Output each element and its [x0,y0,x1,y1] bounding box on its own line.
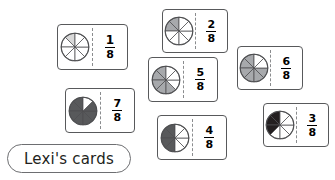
fraction-circle-icon [160,123,190,153]
fraction-notation: 38 [307,113,317,138]
fraction-notation: 58 [195,67,205,92]
fraction-card[interactable]: 28 [162,9,228,53]
fraction-circle-icon [265,110,295,140]
fraction-circle-icon [239,53,269,83]
fraction-card[interactable]: 18 [57,24,128,70]
fraction-numerator: 4 [205,125,213,137]
fraction-numerator: 7 [113,98,121,110]
fraction-circle-icon [68,96,98,126]
fraction-denominator: 8 [113,111,121,123]
fraction-card[interactable]: 68 [237,46,303,90]
fraction-circle-icon [151,65,181,95]
fraction-card-diagram [149,58,183,101]
fraction-card-value: 28 [196,10,228,52]
fraction-notation: 78 [112,98,122,123]
fraction-numerator: 6 [282,56,290,68]
lexis-cards-label-text: Lexi's cards [24,150,114,168]
fraction-numerator: 5 [196,67,204,79]
fraction-card-diagram [158,116,192,159]
fraction-denominator: 8 [308,126,316,138]
fraction-notation: 68 [281,56,291,81]
fraction-denominator: 8 [205,138,213,150]
fraction-card-value: 68 [271,47,303,89]
fraction-denominator: 8 [207,32,215,44]
fraction-circle-icon [164,16,194,46]
fraction-denominator: 8 [196,80,204,92]
fraction-numerator: 1 [106,34,114,47]
worksheet-canvas: 18285868784838Lexi's cards [0,0,335,180]
fraction-notation: 48 [204,125,214,150]
fraction-card[interactable]: 38 [263,103,329,147]
fraction-numerator: 2 [207,19,215,31]
fraction-card-diagram [238,47,270,89]
fraction-card-diagram [163,10,195,52]
fraction-card-value: 78 [101,89,135,132]
fraction-card-value: 58 [184,58,218,101]
fraction-card-diagram [264,104,296,146]
fraction-notation: 18 [105,34,115,60]
fraction-denominator: 8 [282,69,290,81]
fraction-card-value: 38 [297,104,329,146]
fraction-card[interactable]: 48 [157,115,227,160]
fraction-card-value: 48 [193,116,227,159]
fraction-card-value: 18 [93,25,127,69]
fraction-circle-icon [60,32,90,62]
lexis-cards-label: Lexi's cards [7,144,131,173]
fraction-card[interactable]: 78 [65,88,135,133]
fraction-numerator: 3 [308,113,316,125]
fraction-card[interactable]: 58 [148,57,218,102]
fraction-card-diagram [66,89,100,132]
fraction-notation: 28 [206,19,216,44]
fraction-denominator: 8 [106,48,114,60]
fraction-card-diagram [58,25,92,69]
